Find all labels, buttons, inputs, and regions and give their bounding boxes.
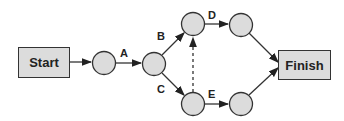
edge-label-a: A (120, 47, 128, 59)
node-6 (230, 93, 253, 116)
node-4 (230, 14, 253, 37)
node-1 (93, 52, 116, 75)
edge-c (162, 73, 184, 95)
edge-label-c: C (157, 83, 165, 95)
edge-b (162, 33, 184, 55)
edge-label-e: E (208, 88, 215, 100)
edge-label-b: B (157, 30, 165, 42)
finish-box: Finish (278, 50, 331, 80)
edge-n4-finish (249, 33, 278, 62)
start-box: Start (18, 47, 70, 78)
edge-n6-finish (249, 68, 278, 95)
node-3 (182, 13, 205, 36)
node-5 (182, 93, 205, 116)
edge-label-d: D (208, 9, 216, 21)
node-2 (143, 53, 166, 76)
